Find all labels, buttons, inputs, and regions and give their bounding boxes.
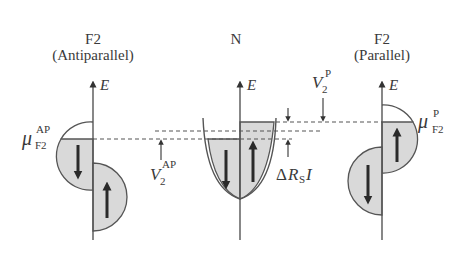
panel-subtitle-parallel: (Parallel)	[354, 47, 410, 64]
mu-f2-ap-label: μ AP F2	[21, 123, 50, 151]
panel-title-n: N	[231, 31, 242, 47]
svg-text:I: I	[305, 165, 313, 184]
panel-f2-parallel: E μ P F2	[348, 77, 444, 240]
dos-down-empty	[61, 122, 93, 139]
svg-text:AP: AP	[36, 123, 50, 135]
svg-text:F2: F2	[35, 139, 47, 151]
dos-down-filled	[56, 139, 93, 190]
panel-title-f2-antiparallel: F2	[85, 31, 101, 47]
svg-text:μ: μ	[21, 127, 32, 150]
v2-ap-annotation: V AP 2	[150, 142, 176, 187]
dos-up-filled	[93, 163, 127, 231]
p-dos-down-filled	[348, 147, 382, 215]
panel-f2-antiparallel: E μ AP F2	[21, 77, 127, 240]
svg-text:μ: μ	[417, 110, 428, 133]
svg-text:2: 2	[322, 83, 328, 95]
p-dos-up-empty	[382, 105, 413, 122]
panel-n: E	[203, 77, 276, 240]
mu-f2-p-label: μ P F2	[417, 107, 444, 135]
spin-accumulation-diagram: F2 (Antiparallel) N F2 (Parallel) E μ AP…	[0, 0, 460, 279]
svg-text:P: P	[433, 107, 439, 119]
v2-p-annotation: V P 2	[312, 67, 331, 119]
n-dos-down-filled	[208, 139, 240, 199]
svg-text:Δ: Δ	[276, 165, 287, 184]
svg-text:AP: AP	[162, 158, 176, 170]
svg-text:R: R	[287, 165, 299, 184]
delta-rs-i-annotation: Δ R S I	[276, 108, 313, 185]
panel-subtitle-antiparallel: (Antiparallel)	[52, 47, 134, 64]
energy-axis-label: E	[99, 77, 109, 93]
svg-text:P: P	[325, 67, 331, 79]
panel-title-f2-parallel: F2	[374, 31, 390, 47]
p-energy-axis-label: E	[388, 77, 398, 93]
p-dos-up-filled	[382, 122, 418, 173]
svg-text:2: 2	[160, 175, 166, 187]
svg-text:S: S	[299, 173, 305, 185]
n-energy-axis-label: E	[246, 77, 256, 93]
svg-text:F2: F2	[432, 123, 444, 135]
